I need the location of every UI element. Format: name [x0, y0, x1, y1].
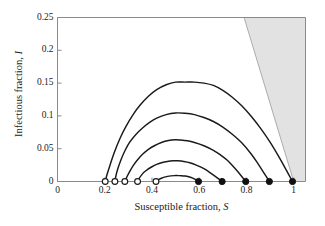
- y-axis-title-variable: I: [13, 51, 24, 55]
- y-tick-label: 0.05: [37, 144, 54, 154]
- open-circle-marker: [112, 179, 118, 185]
- open-circle-marker: [102, 179, 108, 185]
- filled-circle-marker: [219, 178, 225, 184]
- y-tick-marks: [58, 18, 62, 182]
- figure-container: 00.050.10.150.20.25 00.20.40.60.81 Susce…: [0, 0, 325, 226]
- filled-circle-marker: [266, 178, 272, 184]
- y-axis-title: Infectious fraction, I: [14, 12, 25, 176]
- x-tick-label: 1: [274, 186, 314, 196]
- filled-circle-marker: [243, 178, 249, 184]
- x-tick-label: 0.6: [179, 186, 219, 196]
- open-circle-marker: [122, 179, 128, 185]
- x-tick-label: 0.4: [132, 186, 172, 196]
- y-tick-label: 0.25: [37, 13, 54, 23]
- x-tick-label: 0.8: [226, 186, 266, 196]
- open-circle-marker: [135, 179, 141, 185]
- x-axis-title: Susceptible fraction, S: [38, 202, 325, 213]
- y-tick-label: 0.15: [37, 78, 54, 88]
- filled-circle-marker: [195, 178, 201, 184]
- open-circle-marker: [153, 179, 159, 185]
- x-tick-marks: [58, 178, 294, 182]
- y-tick-label: 0.1: [42, 111, 54, 121]
- trajectory-curve: [138, 161, 223, 182]
- trajectory-curves-group: [105, 82, 292, 182]
- y-axis-title-text: Infectious fraction,: [13, 54, 24, 137]
- trajectory-curve: [115, 113, 269, 182]
- trajectory-curve: [156, 176, 199, 182]
- x-tick-label: 0.2: [85, 186, 125, 196]
- x-axis-title-text: Susceptible fraction,: [134, 201, 223, 212]
- trajectory-curve: [125, 140, 246, 182]
- y-tick-label: 0.2: [42, 45, 54, 55]
- filled-circle-marker: [289, 178, 295, 184]
- x-axis-title-variable: S: [223, 201, 228, 212]
- x-tick-label: 0: [38, 186, 78, 196]
